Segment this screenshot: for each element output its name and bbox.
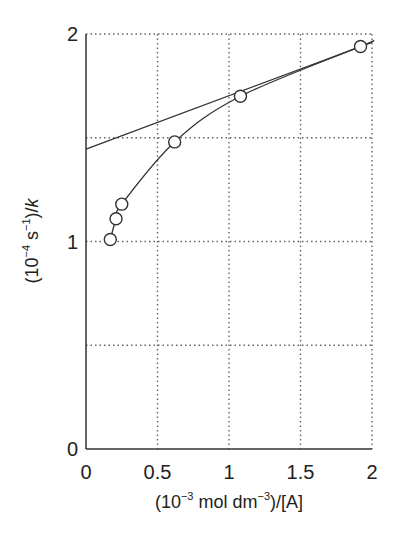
y-tick-label: 2 xyxy=(67,23,78,45)
x-tick-label: 1.5 xyxy=(287,461,315,483)
y-tick-labels: 012 xyxy=(67,23,78,460)
y-tick-label: 0 xyxy=(67,438,78,460)
data-curve xyxy=(110,41,373,240)
data-point-circle xyxy=(110,213,122,225)
x-tick-labels: 00.511.52 xyxy=(80,461,377,483)
data-point-circle xyxy=(234,90,246,102)
data-point-circle xyxy=(169,136,181,148)
x-tick-label: 0.5 xyxy=(144,461,172,483)
data-points xyxy=(104,40,366,245)
data-point-circle xyxy=(104,233,116,245)
x-tick-label: 2 xyxy=(366,461,377,483)
y-axis-label: (10−4 s−1)/k xyxy=(20,197,42,283)
x-tick-label: 0 xyxy=(80,461,91,483)
chart: 00.511.52 012 (10−3 mol dm−3)/[A] (10−4 … xyxy=(0,0,402,543)
data-curve-path xyxy=(110,41,373,240)
data-point-circle xyxy=(355,40,367,52)
data-point-circle xyxy=(116,198,128,210)
x-tick-label: 1 xyxy=(223,461,234,483)
x-axis-label: (10−3 mol dm−3)/[A] xyxy=(155,490,303,512)
y-tick-label: 1 xyxy=(67,231,78,253)
